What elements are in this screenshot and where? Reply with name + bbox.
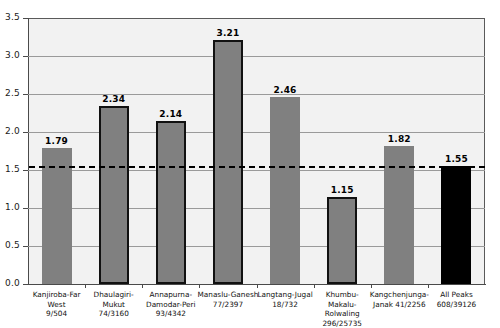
y-tick-mark [23,18,28,19]
bar-value-label: 3.21 [198,28,258,38]
y-axis-line [28,18,29,285]
x-axis-label: Khumbu-Makalu-Rolwaling296/25735 [312,290,373,328]
y-tick-mark [23,56,28,57]
x-axis-label-line: Annapurna- [140,290,201,300]
x-axis-label: Manaslu-Ganesh77/2397 [197,290,258,309]
gridline [28,56,485,57]
x-axis-label-line: Manaslu-Ganesh [197,290,258,300]
x-axis-label-line: 18/732 [255,300,316,310]
x-axis-label-line: 74/3160 [83,309,144,319]
y-tick-mark [23,208,28,209]
x-axis-label-line: 9/504 [26,309,87,319]
reference-line [29,166,485,168]
gridline [28,208,485,209]
x-axis-label-line: Janak 41/2256 [369,300,430,310]
x-axis-label-line: Langtang-Jugal [255,290,316,300]
bar-group: 1.79 [42,148,72,284]
bar-group: 1.55 [441,166,471,284]
y-tick-mark [23,94,28,95]
bar-value-label: 2.46 [255,85,315,95]
bar-group: 3.21 [213,40,243,284]
bar[interactable] [99,106,129,284]
bar-value-label: 1.79 [27,136,87,146]
x-axis-label-line: Kangchenjunga- [369,290,430,300]
bar-value-label: 1.15 [312,185,372,195]
y-tick-label: 0.5 [0,240,20,250]
bar[interactable] [213,40,243,284]
x-axis-label-line: Damodar-Peri [140,300,201,310]
x-tick-mark [428,284,429,288]
x-axis-label: Annapurna-Damodar-Peri93/4342 [140,290,201,319]
y-tick-label: 3.0 [0,50,20,60]
x-axis-label: All Peaks608/39126 [426,290,487,309]
x-axis-label-line: Khumbu-Makalu- [312,290,373,309]
bar[interactable] [42,148,72,284]
x-axis-label: Langtang-Jugal18/732 [255,290,316,309]
x-axis-label-line: Rolwaling [312,309,373,319]
y-tick-label: 1.0 [0,202,20,212]
y-tick-label: 2.0 [0,126,20,136]
y-tick-mark [23,246,28,247]
bar-group: 1.15 [327,197,357,284]
x-axis-label: Kanjiroba-Far West9/504 [26,290,87,319]
bar-value-label: 2.34 [84,94,144,104]
x-axis-label-line: Dhaulagiri-Mukut [83,290,144,309]
y-tick-label: 0.0 [0,278,20,288]
x-tick-mark [142,284,143,288]
y-tick-mark [23,284,28,285]
x-axis-label-line: All Peaks [426,290,487,300]
x-tick-mark [85,284,86,288]
bar[interactable] [327,197,357,284]
gridline [28,246,485,247]
y-tick-mark [23,170,28,171]
x-axis-label-line: 608/39126 [426,300,487,310]
y-tick-label: 1.5 [0,164,20,174]
bar[interactable] [441,166,471,284]
bar-group: 2.34 [99,106,129,284]
plot-area [28,18,485,284]
x-axis-label: Kangchenjunga-Janak 41/2256 [369,290,430,309]
x-axis-label-line: Kanjiroba-Far West [26,290,87,309]
bar[interactable] [270,97,300,284]
bar-value-label: 2.14 [141,109,201,119]
x-axis-label-line: 77/2397 [197,300,258,310]
bar-group: 2.14 [156,121,186,284]
x-axis-label: Dhaulagiri-Mukut74/3160 [83,290,144,319]
x-tick-mark [199,284,200,288]
x-tick-mark [314,284,315,288]
bar-value-label: 1.55 [426,154,486,164]
bar-group: 2.46 [270,97,300,284]
y-tick-label: 2.5 [0,88,20,98]
y-tick-mark [23,132,28,133]
x-tick-mark [257,284,258,288]
x-tick-mark [371,284,372,288]
x-axis-label-line: 93/4342 [140,309,201,319]
x-axis-label-line: 296/25735 [312,319,373,328]
y-tick-label: 3.5 [0,12,20,22]
gridline [28,170,485,171]
bar-value-label: 1.82 [369,134,429,144]
bar[interactable] [156,121,186,284]
